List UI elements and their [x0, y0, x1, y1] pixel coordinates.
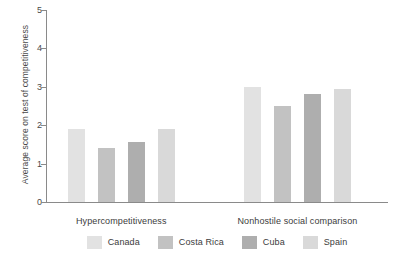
x-axis-line: [46, 202, 388, 203]
y-axis-tick-1: [41, 164, 47, 165]
x-axis-group-label-2: Nonhostile social comparison: [238, 216, 358, 226]
y-axis-tick-label-4: 4: [22, 44, 42, 53]
legend-item-label: Spain: [324, 237, 348, 247]
y-axis-line: [46, 10, 47, 203]
bar-cuba-group-2: [304, 94, 321, 202]
legend-item-costa-rica[interactable]: Costa Rica: [158, 236, 224, 249]
legend-swatch-icon: [158, 236, 173, 249]
legend-swatch-icon: [87, 236, 102, 249]
bar-spain-group-2: [334, 89, 351, 202]
y-axis-tick-5: [41, 10, 47, 11]
y-axis-tick-label-0: 0: [22, 198, 42, 207]
bar-canada-group-2: [244, 87, 261, 202]
legend: CanadaCosta RicaCubaSpain: [46, 234, 388, 250]
y-axis-tick-2: [41, 125, 47, 126]
y-axis-tick-label-1: 1: [22, 160, 42, 169]
y-axis-tick-labels: 012345: [20, 10, 42, 203]
legend-item-label: Canada: [108, 237, 140, 247]
legend-swatch-icon: [242, 236, 257, 249]
legend-item-spain[interactable]: Spain: [303, 236, 348, 249]
y-axis-tick-label-5: 5: [22, 6, 42, 15]
bar-costa-rica-group-2: [274, 106, 291, 202]
bar-costa-rica-group-1: [98, 148, 115, 202]
bar-canada-group-1: [68, 129, 85, 202]
legend-item-label: Cuba: [263, 237, 285, 247]
legend-swatch-icon: [303, 236, 318, 249]
plot-area: HypercompetitivenessNonhostile social co…: [46, 10, 388, 203]
y-axis-tick-label-2: 2: [22, 121, 42, 130]
bar-spain-group-1: [158, 129, 175, 202]
legend-item-canada[interactable]: Canada: [87, 236, 140, 249]
y-axis-tick-3: [41, 87, 47, 88]
bar-cuba-group-1: [128, 142, 145, 202]
y-axis-tick-4: [41, 48, 47, 49]
legend-item-label: Costa Rica: [179, 237, 224, 247]
y-axis-tick-label-3: 3: [22, 83, 42, 92]
bar-chart-figure: Average score on test of competitiveness…: [0, 0, 404, 263]
x-axis-group-label-1: Hypercompetitiveness: [76, 216, 167, 226]
legend-item-cuba[interactable]: Cuba: [242, 236, 285, 249]
y-axis-tick-0: [41, 202, 47, 203]
